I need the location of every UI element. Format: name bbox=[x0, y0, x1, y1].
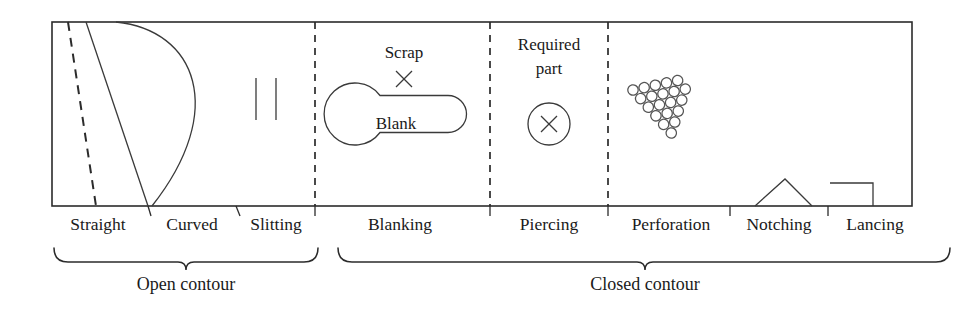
slitting-shape bbox=[256, 78, 276, 120]
tick-1 bbox=[148, 206, 151, 216]
group-braces bbox=[54, 248, 950, 270]
operation-label-blanking: Blanking bbox=[368, 214, 432, 234]
required-part-label-line1: Required bbox=[518, 35, 581, 54]
operation-label-perforation: Perforation bbox=[632, 214, 711, 234]
group-label-closed-contour: Closed contour bbox=[590, 274, 700, 294]
cutting-operations-diagram: Sheet metal cutting operations: open and… bbox=[0, 0, 962, 314]
open-contour-brace bbox=[54, 248, 318, 270]
operation-label-curved: Curved bbox=[166, 214, 218, 234]
tick-2 bbox=[236, 206, 240, 216]
piercing-x-icon bbox=[541, 116, 557, 132]
operation-label-notching: Notching bbox=[746, 214, 811, 234]
piercing-shape bbox=[528, 103, 570, 145]
curved-cut-arc bbox=[116, 22, 195, 206]
operation-label-straight: Straight bbox=[70, 214, 126, 234]
group-label-open-contour: Open contour bbox=[137, 274, 235, 294]
required-part-label-line2: part bbox=[536, 59, 563, 78]
operation-label-piercing: Piercing bbox=[520, 214, 579, 234]
blank-label: Blank bbox=[376, 114, 417, 133]
notching-peak-shape bbox=[755, 179, 812, 206]
lancing-flap-shape bbox=[830, 183, 873, 206]
straight-dashed-line bbox=[68, 22, 96, 206]
operation-label-lancing: Lancing bbox=[846, 214, 904, 234]
blanking-shape bbox=[324, 71, 466, 145]
perforation-cluster bbox=[627, 73, 700, 145]
scrap-label: Scrap bbox=[385, 43, 424, 62]
straight-cut-shape bbox=[68, 22, 148, 206]
diagram-canvas: Sheet metal cutting operations: open and… bbox=[0, 0, 962, 314]
closed-contour-brace bbox=[338, 248, 950, 270]
straight-solid-line bbox=[86, 22, 148, 206]
scrap-x-icon bbox=[396, 71, 412, 87]
operation-label-slitting: Slitting bbox=[250, 214, 302, 234]
operation-labels: Straight Curved Slitting Blanking Pierci… bbox=[70, 214, 904, 234]
sheet-frame bbox=[52, 22, 912, 206]
